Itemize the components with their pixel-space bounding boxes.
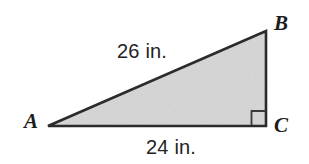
vertex-label-a: A — [24, 111, 38, 132]
right-triangle-figure: A B C 26 in. 24 in. — [0, 0, 309, 164]
vertex-label-b: B — [274, 13, 288, 34]
vertex-label-c: C — [274, 115, 288, 136]
hypotenuse-measurement-label: 26 in. — [117, 41, 167, 61]
base-measurement-label: 24 in. — [146, 137, 196, 157]
